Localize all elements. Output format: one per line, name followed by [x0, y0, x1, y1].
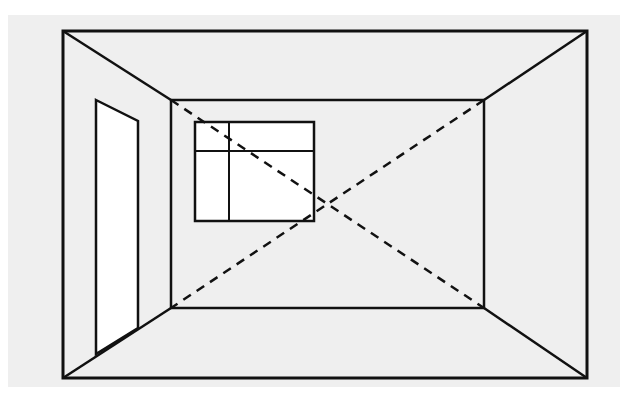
door — [96, 100, 138, 354]
diagram-canvas — [0, 0, 627, 396]
window — [195, 122, 314, 221]
window-frame — [195, 122, 314, 221]
perspective-room-diagram — [0, 0, 627, 396]
